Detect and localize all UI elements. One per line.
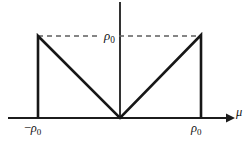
x-axis-name-label: μ: [236, 106, 242, 119]
x-left-subscript: 0: [37, 127, 42, 137]
x-left-sign: −: [24, 121, 31, 135]
figure-container: ρ0 −ρ0 ρ0 μ: [0, 0, 252, 146]
arrow-right-icon: [226, 114, 235, 123]
y-level-label: ρ0: [101, 28, 117, 46]
x-tick-label-left: −ρ0: [24, 122, 41, 137]
y-level-subscript: 0: [110, 35, 115, 45]
x-tick-label-right: ρ0: [191, 122, 202, 137]
x-right-subscript: 0: [197, 127, 202, 137]
